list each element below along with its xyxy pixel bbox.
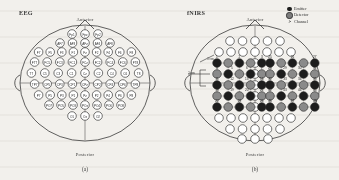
fnirs-channel-number: 11 xyxy=(215,77,219,81)
eeg-electrode-label: FC3 xyxy=(57,61,63,65)
fnirs-empty-optode xyxy=(239,114,248,123)
eeg-electrode-label: Fp2 xyxy=(95,33,101,37)
eeg-electrode-label: Fp1 xyxy=(69,33,75,37)
fnirs-channel-number: 23 xyxy=(238,99,242,103)
eeg-electrode-label: CP6 xyxy=(120,83,126,87)
right-ear-marker xyxy=(150,75,155,91)
eeg-electrode-label: P1 xyxy=(72,94,76,98)
fnirs-empty-optode xyxy=(238,135,247,144)
fnirs-channel-number: 7 xyxy=(261,66,263,70)
fnirs-channel-number: 35 xyxy=(313,77,317,81)
fnirs-emitter xyxy=(235,59,244,68)
eeg-electrode-label: C5 xyxy=(43,72,47,76)
eeg-electrode-label: C6 xyxy=(123,72,127,76)
fnirs-empty-optode xyxy=(251,135,260,144)
eeg-electrode-label: CP1 xyxy=(69,83,75,87)
fnirs-detector xyxy=(224,103,233,112)
fnirs-channel-number: 5 xyxy=(231,66,233,70)
fnirs-channel-number: 12 xyxy=(230,77,234,81)
fnirs-empty-optode xyxy=(251,37,260,46)
eeg-electrode-label: P5 xyxy=(48,94,52,98)
fnirs-channel-number: 13 xyxy=(245,77,249,81)
fnirs-channel-number: 6 xyxy=(246,66,248,70)
eeg-head-diagram: Fp1FpzFp2AF7AF3AFzAF4AF8F7F5F3F1FzF2F4F6… xyxy=(0,0,169,180)
fnirs-emitter xyxy=(299,92,308,101)
eeg-electrode-label: AF4 xyxy=(95,42,101,46)
eeg-electrode-label: PO5 xyxy=(58,104,64,108)
fnirs-detector xyxy=(288,70,297,79)
fnirs-channel-number: 18 xyxy=(215,88,219,92)
fnirs-empty-optode xyxy=(215,114,224,123)
fnirs-channel-number: 2 xyxy=(239,55,241,59)
fnirs-channel-number: 46 xyxy=(268,99,272,103)
fnirs-channel-number: 31 xyxy=(313,66,317,70)
eeg-electrode-label: P4 xyxy=(106,94,110,98)
eeg-electrode-label: AFz xyxy=(82,42,88,46)
eeg-electrode-label: PO6 xyxy=(106,104,112,108)
left-ear-marker xyxy=(15,75,20,91)
fnirs-emitter xyxy=(288,81,297,90)
fnirs-channel-number: 28 xyxy=(268,66,272,70)
eeg-electrode-label: C1 xyxy=(70,72,74,76)
fnirs-detector xyxy=(277,103,286,112)
fnirs-empty-optode xyxy=(227,48,236,57)
scale-bar-group xyxy=(188,55,214,86)
fnirs-channel-number: 34 xyxy=(298,77,302,81)
fnirs-channel-number: 20 xyxy=(245,88,249,92)
fnirs-detector xyxy=(246,103,255,112)
fnirs-emitter xyxy=(246,92,255,101)
fnirs-empty-optode xyxy=(264,135,273,144)
fnirs-channel-number: 1 xyxy=(216,55,218,59)
fnirs-channel-number: 26 xyxy=(291,55,295,59)
fnirs-channel-number: 19 xyxy=(230,88,234,92)
eeg-electrode-label: C4 xyxy=(110,72,114,76)
fnirs-channel-number: 33 xyxy=(283,77,287,81)
fnirs-channel-number: 22 xyxy=(215,99,219,103)
fnirs-empty-optode xyxy=(287,114,296,123)
fnirs-emitter xyxy=(235,81,244,90)
eeg-electrode-label: P3 xyxy=(60,94,64,98)
left-ear-marker xyxy=(185,75,190,91)
fnirs-channel-number: 32 xyxy=(268,77,272,81)
eeg-electrode-label: F6 xyxy=(118,51,122,55)
eeg-electrode-label: FT7 xyxy=(32,61,38,65)
eeg-electrode-label: AF8 xyxy=(107,42,113,46)
eeg-electrode-label: P2 xyxy=(95,94,99,98)
eeg-electrode-label: CP5 xyxy=(44,83,50,87)
eeg-electrode-label: TP7 xyxy=(32,83,38,87)
eeg-electrode-label: CPz xyxy=(82,83,88,87)
eeg-electrode-label: TP8 xyxy=(133,83,139,87)
right-ear-marker xyxy=(320,75,325,91)
fnirs-channel-number: 44 xyxy=(298,88,302,92)
fnirs-empty-optode xyxy=(275,114,284,123)
fnirs-empty-optode xyxy=(238,125,247,134)
eeg-electrode-label: AF3 xyxy=(70,42,76,46)
fnirs-empty-optode xyxy=(251,48,260,57)
fnirs-channel-number: 4 xyxy=(216,66,218,70)
eeg-electrode-label: Fz xyxy=(83,51,87,55)
eeg-electrode-label: F1 xyxy=(72,51,76,55)
eeg-electrode-label: FC6 xyxy=(120,61,126,65)
eeg-electrode-label: F8 xyxy=(130,51,134,55)
eeg-electrode-label: FC2 xyxy=(95,61,101,65)
fnirs-channel-number: 30 xyxy=(298,66,302,70)
eeg-electrode-label: P6 xyxy=(118,94,122,98)
fnirs-channel-number: 42 xyxy=(268,88,272,92)
eeg-electrode-label: PO4 xyxy=(94,104,100,108)
eeg-electrode-label: CP4 xyxy=(107,83,113,87)
fnirs-detector xyxy=(299,103,308,112)
fnirs-empty-optode xyxy=(226,125,235,134)
eeg-electrode-label: CP2 xyxy=(95,83,101,87)
panel-eeg: EEG Anterior Posterior (a) Fp1FpzFp2AF7A… xyxy=(0,0,169,180)
fnirs-emitter xyxy=(266,103,275,112)
eeg-electrode-label: Cz xyxy=(83,72,87,76)
fnirs-empty-optode xyxy=(226,37,235,46)
fnirs-channel-number: 43 xyxy=(283,88,287,92)
eeg-electrode-label: T8 xyxy=(137,72,141,76)
eeg-electrode-label: FC5 xyxy=(44,61,50,65)
eeg-electrode-label: FCz xyxy=(82,61,88,65)
fnirs-empty-optode xyxy=(276,37,285,46)
eeg-electrode-label: PO8 xyxy=(118,104,124,108)
figure-two-panel-montage: EEG Anterior Posterior (a) Fp1FpzFp2AF7A… xyxy=(0,0,339,180)
eeg-electrode-label: FT8 xyxy=(133,61,139,65)
